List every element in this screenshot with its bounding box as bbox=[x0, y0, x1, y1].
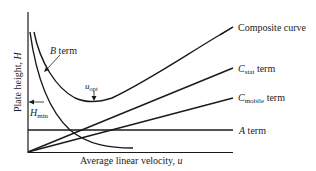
composite-leader bbox=[220, 27, 233, 35]
cstat-term-line bbox=[28, 68, 233, 152]
hmin-arrowhead bbox=[29, 100, 34, 105]
hmin-label: Hmin bbox=[29, 107, 49, 120]
cstat-term-label: Cstat term bbox=[238, 63, 275, 76]
composite-curve-label: Composite curve bbox=[238, 22, 307, 33]
y-axis-label: Plate height, H bbox=[12, 52, 23, 113]
van-deemter-chart: Plate height, H Average linear velocity,… bbox=[0, 0, 316, 171]
cmobile-term-label: Cmobile term bbox=[238, 92, 285, 105]
a-term-label: A term bbox=[238, 125, 266, 136]
x-axis-label: Average linear velocity, u bbox=[80, 155, 182, 166]
uopt-arrowhead bbox=[92, 96, 97, 101]
cmobile-term-line bbox=[28, 98, 233, 152]
uopt-label: uopt bbox=[85, 81, 98, 92]
b-term-label: B term bbox=[50, 45, 77, 56]
b-term-pointer bbox=[46, 55, 60, 70]
composite-curve bbox=[34, 27, 233, 101]
